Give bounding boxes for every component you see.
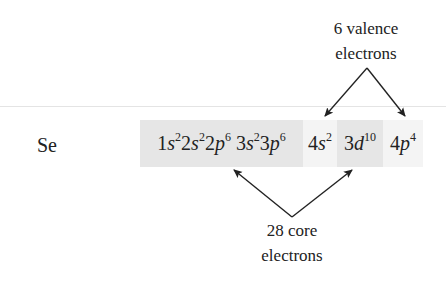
arrow-to-core-icon [234,170,292,217]
arrow-to-4p-icon [367,68,405,116]
arrow-to-3d-icon [292,170,352,217]
core-arrows [234,170,352,217]
valence-arrows [325,68,405,116]
electron-configuration-diagram: 6 valence electrons Se 1s22s22p6 3s23p64… [0,0,446,288]
arrow-to-4s-icon [325,68,367,116]
arrows [0,0,446,288]
